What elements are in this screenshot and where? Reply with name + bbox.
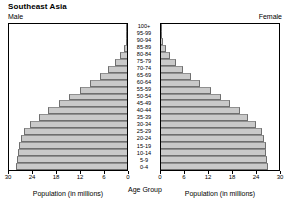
male-bar [100, 73, 127, 80]
axis-tick-label: 6 [182, 174, 185, 180]
axis-tick-label: 6 [102, 174, 105, 180]
male-bar [48, 107, 127, 114]
female-bar [161, 45, 166, 52]
bar-row [161, 107, 279, 114]
female-bar [161, 87, 211, 94]
bar-row [161, 128, 279, 135]
female-bar [161, 73, 191, 80]
bar-row [161, 73, 279, 80]
axis-tick-label: 18 [229, 174, 236, 180]
male-axis-title: Population (in millions) [8, 190, 128, 197]
female-bar-rows [161, 24, 279, 170]
bar-row [9, 128, 127, 135]
male-bar [24, 128, 127, 135]
male-bar [120, 52, 127, 59]
bar-row [9, 135, 127, 142]
age-group-label: 5-9 [128, 157, 160, 164]
bar-row [161, 24, 279, 31]
female-axis-title: Population (in millions) [160, 190, 280, 197]
axis-tick-label: 0 [126, 174, 129, 180]
male-bar [115, 59, 127, 66]
bar-row [161, 135, 279, 142]
male-bar [69, 94, 127, 101]
bar-row [161, 59, 279, 66]
age-group-label: 0-4 [128, 164, 160, 171]
bar-row [161, 31, 279, 38]
age-group-labels: 0-45-910-1415-1920-2425-2930-3435-3940-4… [128, 23, 160, 171]
bar-row [161, 66, 279, 73]
bar-row [161, 121, 279, 128]
bar-row [9, 87, 127, 94]
bar-row [161, 38, 279, 45]
age-group-label: 100+ [128, 23, 160, 30]
female-panel [160, 23, 280, 171]
bar-row [9, 94, 127, 101]
male-bar [126, 24, 127, 31]
female-bar [161, 94, 221, 101]
female-bar [161, 121, 256, 128]
bar-row [161, 163, 279, 170]
female-bar [161, 24, 162, 31]
female-bar [161, 149, 266, 156]
male-bar [108, 66, 127, 73]
male-bar [126, 38, 127, 45]
age-group-label: 15-19 [128, 143, 160, 150]
male-bar [124, 45, 127, 52]
male-bar [59, 100, 127, 107]
female-side-label: Female [259, 13, 282, 20]
bar-row [9, 142, 127, 149]
bar-row [9, 149, 127, 156]
chart-title: Southeast Asia [8, 2, 67, 11]
bar-row [161, 94, 279, 101]
age-group-axis: 0-45-910-1415-1920-2425-2930-3435-3940-4… [128, 23, 160, 171]
male-bar [16, 163, 127, 170]
female-bar [161, 163, 268, 170]
female-bar [161, 114, 248, 121]
male-bar [126, 31, 127, 38]
female-bar [161, 135, 264, 142]
bar-row [9, 107, 127, 114]
male-bar [39, 114, 127, 121]
bar-row [9, 121, 127, 128]
pyramid-body: 0-45-910-1415-1920-2425-2930-3435-3940-4… [8, 23, 280, 171]
female-bar [161, 142, 266, 149]
bar-row [161, 156, 279, 163]
male-bar [90, 80, 127, 87]
male-bar [17, 156, 127, 163]
bar-row [161, 149, 279, 156]
female-bar [161, 52, 170, 59]
bar-row [9, 52, 127, 59]
axis-tick-label: 12 [77, 174, 84, 180]
bar-row [161, 100, 279, 107]
center-axis-title: Age Group [128, 186, 160, 193]
axis-tick-label: 12 [205, 174, 212, 180]
male-x-axis: 3024181260 [8, 171, 128, 183]
bar-row [9, 73, 127, 80]
axis-tick-label: 18 [53, 174, 60, 180]
bar-row [9, 59, 127, 66]
male-bar [30, 121, 127, 128]
axis-tick-label: 24 [29, 174, 36, 180]
female-bar [161, 100, 230, 107]
male-bar [21, 135, 127, 142]
female-bar [161, 66, 183, 73]
female-bar [161, 38, 163, 45]
age-group-label: 10-14 [128, 150, 160, 157]
female-bar [161, 31, 162, 38]
bar-row [9, 114, 127, 121]
bar-row [9, 66, 127, 73]
bar-row [161, 52, 279, 59]
female-x-axis: 0612182430 [160, 171, 280, 183]
axis-tick-label: 0 [158, 174, 161, 180]
axis-tick-label: 24 [253, 174, 260, 180]
bar-row [9, 100, 127, 107]
bar-row [9, 80, 127, 87]
bar-row [161, 80, 279, 87]
bar-row [161, 45, 279, 52]
bar-row [9, 38, 127, 45]
male-bar-rows [9, 24, 127, 170]
bar-row [161, 142, 279, 149]
male-side-label: Male [8, 13, 23, 20]
axis-tick-label: 30 [5, 174, 12, 180]
bar-row [9, 163, 127, 170]
